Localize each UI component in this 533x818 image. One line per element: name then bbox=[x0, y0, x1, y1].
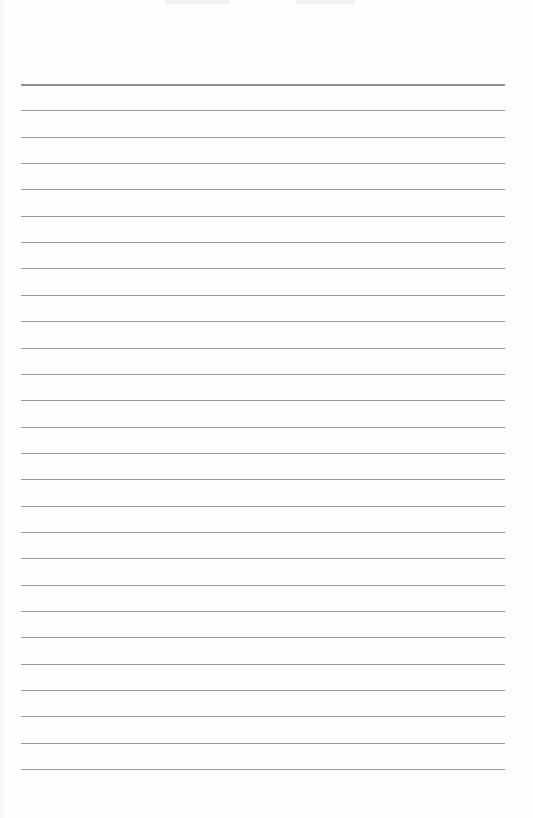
ruled-line bbox=[21, 479, 505, 480]
ruled-line bbox=[21, 558, 505, 559]
ruled-line bbox=[21, 348, 505, 349]
ruled-line bbox=[21, 137, 505, 138]
ruled-line bbox=[21, 637, 505, 638]
ruled-line bbox=[21, 110, 505, 111]
ruled-line bbox=[21, 400, 505, 401]
ruled-line bbox=[21, 321, 505, 322]
ruled-line bbox=[21, 532, 505, 533]
ruled-line bbox=[21, 84, 505, 86]
ruled-line bbox=[21, 506, 505, 507]
ruled-line bbox=[21, 769, 505, 770]
bleed-through-mark bbox=[165, 0, 230, 4]
ruled-line bbox=[21, 585, 505, 586]
ruled-line bbox=[21, 189, 505, 190]
ruled-line bbox=[21, 716, 505, 717]
ruled-line bbox=[21, 268, 505, 269]
ruled-line bbox=[21, 427, 505, 428]
ruled-line bbox=[21, 295, 505, 296]
bleed-through-mark bbox=[295, 0, 355, 4]
ruled-line bbox=[21, 374, 505, 375]
ruled-line bbox=[21, 690, 505, 691]
lined-paper-page bbox=[0, 0, 533, 818]
ruled-line bbox=[21, 216, 505, 217]
ruled-line bbox=[21, 163, 505, 164]
ruled-line bbox=[21, 453, 505, 454]
ruled-line bbox=[21, 611, 505, 612]
scan-edge-shadow bbox=[0, 0, 6, 818]
ruled-line bbox=[21, 242, 505, 243]
ruled-line bbox=[21, 743, 505, 744]
ruled-line bbox=[21, 664, 505, 665]
